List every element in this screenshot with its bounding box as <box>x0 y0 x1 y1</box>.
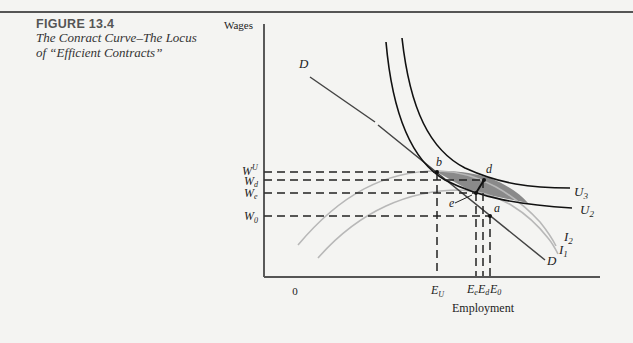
demand-label-bottom: D <box>546 253 557 268</box>
point-b <box>435 170 439 174</box>
w0-label: W0 <box>244 209 258 225</box>
point-d-label: d <box>486 162 493 176</box>
point-e <box>474 191 478 195</box>
i2-label: I2 <box>563 229 573 246</box>
u2-label: U2 <box>580 202 594 219</box>
point-d <box>482 178 486 182</box>
origin-label: 0 <box>292 285 298 297</box>
x-axis-label: Employment <box>452 301 515 315</box>
point-b-label: b <box>436 155 442 169</box>
e0-label: E0 <box>489 282 501 297</box>
demand-label-top: D <box>298 56 309 71</box>
i1-label: I1 <box>558 242 568 259</box>
point-a <box>488 214 492 218</box>
contract-curve-chart: Wages Employment 0 D D U3 U2 I2 I1 b d e… <box>0 0 633 343</box>
eu-label: EU <box>430 283 445 299</box>
point-e-label: e <box>449 196 455 210</box>
ed-label: Ed <box>477 282 490 297</box>
point-a-label: a <box>494 201 500 215</box>
u3-label: U3 <box>574 184 588 201</box>
ee-label: Ee <box>466 282 478 297</box>
y-axis-label: Wages <box>224 19 253 31</box>
